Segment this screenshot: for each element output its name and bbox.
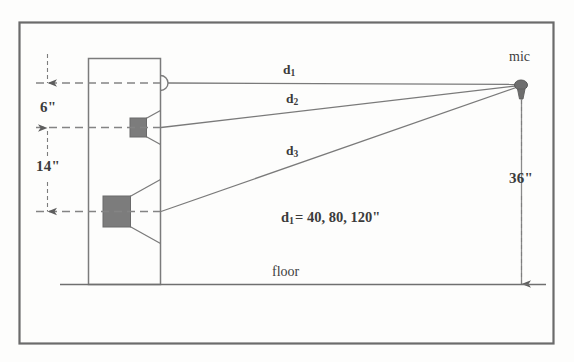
distance-line-d1 <box>168 83 519 85</box>
figure-root: 6" 14" 36" d1 d2 d3 d1= 40, 80, 120" mic… <box>0 0 574 362</box>
dimension-label-36in: 36" <box>509 171 533 186</box>
equation-subscript: 1 <box>289 215 294 226</box>
distance-values-equation: d1= 40, 80, 120" <box>281 210 380 226</box>
d2-subscript: 2 <box>294 97 299 107</box>
diagram-canvas <box>0 0 574 362</box>
distance-label-d3: d3 <box>286 144 298 160</box>
d1-subscript: 1 <box>291 68 296 78</box>
d3-subscript: 3 <box>294 149 299 159</box>
equation-variable: d <box>281 209 289 225</box>
dimension-label-14in: 14" <box>36 159 60 174</box>
d1-letter: d <box>283 62 291 77</box>
dimension-label-6in: 6" <box>40 100 56 115</box>
mic-body-icon <box>518 89 526 99</box>
distance-line-d3 <box>161 87 519 212</box>
distance-label-d2: d2 <box>286 92 298 108</box>
d3-letter: d <box>286 143 294 158</box>
mic-capsule-icon <box>515 80 528 90</box>
equation-values: = 40, 80, 120" <box>295 209 380 225</box>
distance-label-d1: d1 <box>283 63 295 79</box>
mic-label: mic <box>509 50 530 64</box>
distance-line-d2 <box>161 86 519 128</box>
speaker-cabinet <box>89 59 161 285</box>
d2-letter: d <box>286 91 294 106</box>
floor-label: floor <box>272 265 299 279</box>
tweeter-dome-icon <box>161 76 169 91</box>
